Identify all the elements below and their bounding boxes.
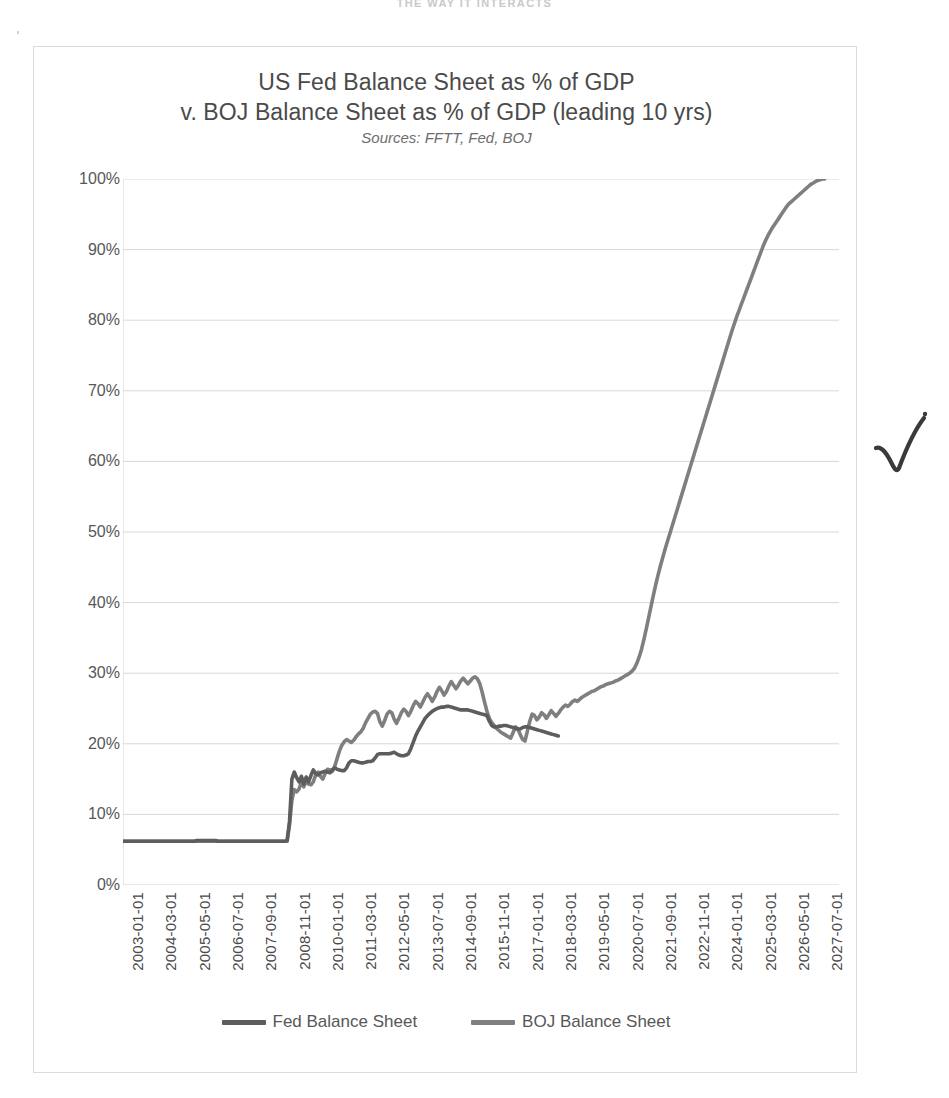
x-axis-tick-label: 2005-05-01	[196, 892, 213, 971]
chart-title-line-1: US Fed Balance Sheet as % of GDP	[74, 67, 819, 97]
x-axis-tick-label: 2024-01-01	[728, 892, 745, 971]
legend-label: Fed Balance Sheet	[273, 1012, 418, 1032]
chart-title-line-2: v. BOJ Balance Sheet as % of GDP (leadin…	[74, 97, 819, 127]
x-axis-tick-label: 2025-03-01	[762, 892, 779, 971]
x-axis-tick-label: 2010-01-01	[329, 892, 346, 971]
y-axis-tick-label: 90%	[54, 241, 120, 259]
y-axis-tick-label: 50%	[54, 523, 120, 541]
series-line	[123, 706, 558, 841]
chart-subtitle: Sources: FFTT, Fed, BOJ	[74, 129, 819, 146]
x-axis-tick-label: 2008-11-01	[296, 892, 313, 970]
legend-item[interactable]: Fed Balance Sheet	[222, 1012, 418, 1032]
x-axis-labels: 2003-01-012004-03-012005-05-012006-07-01…	[123, 892, 839, 1012]
x-axis-tick-label: 2021-09-01	[662, 892, 679, 971]
x-axis-tick-label: 2017-01-01	[529, 892, 546, 971]
x-axis-tick-label: 2011-03-01	[362, 892, 379, 970]
x-axis-tick-label: 2027-07-01	[828, 892, 845, 971]
y-axis-tick-label: 80%	[54, 311, 120, 329]
legend-swatch	[471, 1020, 515, 1025]
y-axis-tick-label: 40%	[54, 594, 120, 612]
y-axis-tick-label: 20%	[54, 735, 120, 753]
legend-label: BOJ Balance Sheet	[522, 1012, 670, 1032]
legend-swatch	[222, 1020, 266, 1025]
x-axis-tick-label: 2018-03-01	[562, 892, 579, 971]
y-axis-tick-label: 30%	[54, 664, 120, 682]
chart-container: US Fed Balance Sheet as % of GDP v. BOJ …	[33, 46, 857, 1073]
x-axis-tick-label: 2026-05-01	[795, 892, 812, 971]
scan-speck	[17, 31, 19, 34]
x-axis-tick-label: 2019-05-01	[595, 892, 612, 971]
y-axis-tick-label: 100%	[54, 170, 120, 188]
series-line	[123, 179, 825, 841]
chart-plot-svg	[123, 179, 839, 885]
x-axis-tick-label: 2006-07-01	[229, 892, 246, 971]
y-axis-tick-label: 10%	[54, 805, 120, 823]
chart-title: US Fed Balance Sheet as % of GDP v. BOJ …	[74, 67, 819, 127]
y-axis-tick-label: 0%	[54, 876, 120, 894]
x-axis-tick-label: 2007-09-01	[262, 892, 279, 971]
handwritten-checkmark-icon	[872, 402, 932, 482]
page-header-fragment: THE WAY IT INTERACTS	[0, 0, 949, 8]
plot-area	[123, 179, 839, 885]
x-axis-tick-label: 2015-11-01	[495, 892, 512, 970]
x-axis-tick-label: 2012-05-01	[395, 892, 412, 971]
x-axis-tick-label: 2004-03-01	[162, 892, 179, 971]
y-axis-labels: 100%90%80%70%60%50%40%30%20%10%0%	[54, 179, 120, 885]
legend-item[interactable]: BOJ Balance Sheet	[471, 1012, 670, 1032]
chart-legend: Fed Balance SheetBOJ Balance Sheet	[34, 1012, 858, 1032]
x-axis-tick-label: 2014-09-01	[462, 892, 479, 971]
x-axis-tick-label: 2003-01-01	[129, 892, 146, 971]
x-axis-tick-label: 2022-11-01	[695, 892, 712, 970]
x-axis-tick-label: 2020-07-01	[629, 892, 646, 971]
x-axis-tick-label: 2013-07-01	[429, 892, 446, 971]
y-axis-tick-label: 70%	[54, 382, 120, 400]
y-axis-tick-label: 60%	[54, 452, 120, 470]
